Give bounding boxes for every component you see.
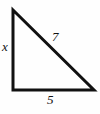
- label-horizontal-leg: 5: [47, 93, 54, 106]
- triangle-figure: x 7 5: [0, 0, 100, 114]
- label-vertical-leg: x: [2, 40, 8, 53]
- triangle-outline: [13, 10, 94, 90]
- label-hypotenuse: 7: [52, 30, 59, 43]
